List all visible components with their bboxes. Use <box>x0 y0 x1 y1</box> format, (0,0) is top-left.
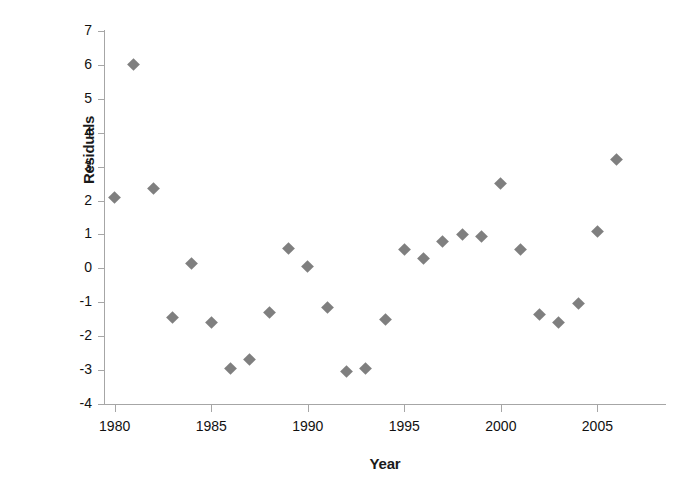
data-point-marker <box>572 298 585 311</box>
x-axis-tick-label-text: 1990 <box>273 418 343 435</box>
plot-area <box>105 31 665 404</box>
data-point-marker <box>282 242 295 255</box>
x-axis-tick-label: 2005 <box>562 418 632 436</box>
x-axis-tick-mark <box>501 404 502 412</box>
y-axis-tick-mark <box>98 133 105 134</box>
x-axis-tick-label: 2000 <box>466 418 536 436</box>
data-point-marker <box>321 301 334 314</box>
y-axis-tick-label-text: 7 <box>50 23 92 37</box>
y-axis-tick-mark <box>98 302 105 303</box>
y-axis-tick-mark <box>98 234 105 235</box>
y-axis-tick-label: -1 <box>48 294 92 308</box>
y-axis-tick-label: 2 <box>48 193 92 207</box>
data-point-marker <box>494 177 507 190</box>
data-point-marker <box>591 225 604 238</box>
data-point-marker <box>205 316 218 329</box>
data-point-marker <box>437 235 450 248</box>
x-axis-tick-mark <box>115 404 116 412</box>
data-point-marker <box>456 228 469 241</box>
y-axis-tick-label-text: 0 <box>50 260 92 274</box>
y-axis-tick-label: 0 <box>48 260 92 274</box>
y-axis-tick-mark <box>98 404 105 405</box>
x-axis-tick-label: 1990 <box>273 418 343 436</box>
y-axis-tick-label: 3 <box>48 159 92 173</box>
x-axis-tick-label: 1980 <box>80 418 150 436</box>
y-axis-tick-label: -3 <box>48 362 92 376</box>
data-point-marker <box>359 362 372 375</box>
x-axis-tick-mark <box>308 404 309 412</box>
x-axis-tick-label: 1995 <box>369 418 439 436</box>
y-axis-tick-label-text: 6 <box>50 57 92 71</box>
data-point-marker <box>147 182 160 195</box>
data-point-marker <box>108 191 121 204</box>
x-axis-tick-label-text: 2005 <box>562 418 632 435</box>
y-axis-tick-label-text: 3 <box>50 159 92 173</box>
y-axis-tick-mark <box>98 201 105 202</box>
data-point-marker <box>340 365 353 378</box>
data-point-marker <box>379 313 392 326</box>
x-axis-tick-label-text: 2000 <box>466 418 536 435</box>
data-point-marker <box>128 59 141 72</box>
y-axis-tick-label-text: 5 <box>50 91 92 105</box>
y-axis-tick-mark <box>98 99 105 100</box>
y-axis-tick-label: -2 <box>48 328 92 342</box>
residuals-scatter-chart: Residuals 76543210-1-2-3-4 1980198519901… <box>0 0 690 494</box>
x-axis-tick-mark <box>211 404 212 412</box>
y-axis-tick-label: 5 <box>48 91 92 105</box>
x-axis-tick-mark <box>404 404 405 412</box>
y-axis-tick-label: 1 <box>48 226 92 240</box>
x-axis-tick-label: 1985 <box>176 418 246 436</box>
x-axis-line <box>104 404 666 405</box>
data-point-marker <box>610 153 623 166</box>
data-point-marker <box>417 252 430 265</box>
y-axis-tick-label-text: 1 <box>50 226 92 240</box>
data-point-marker <box>263 306 276 319</box>
y-axis-tick-label: 4 <box>48 125 92 139</box>
y-axis-tick-label: 6 <box>48 57 92 71</box>
y-axis-tick-label-text: -4 <box>50 396 92 410</box>
y-axis-tick-label-text: -3 <box>50 362 92 376</box>
x-axis-tick-label-text: 1980 <box>80 418 150 435</box>
data-point-marker <box>398 243 411 256</box>
y-axis-tick-label: 7 <box>48 23 92 37</box>
y-axis-tick-mark <box>98 65 105 66</box>
x-axis-tick-label-text: 1995 <box>369 418 439 435</box>
data-point-marker <box>514 243 527 256</box>
y-axis-tick-label-text: -1 <box>50 294 92 308</box>
y-axis-tick-mark <box>98 167 105 168</box>
y-axis-tick-mark <box>98 31 105 32</box>
data-point-marker <box>533 308 546 321</box>
data-point-marker <box>475 230 488 243</box>
y-axis-tick-label-text: 4 <box>50 125 92 139</box>
data-point-marker <box>243 354 256 367</box>
y-axis-tick-mark <box>98 370 105 371</box>
data-point-marker <box>166 311 179 324</box>
x-axis-tick-label-text: 1985 <box>176 418 246 435</box>
data-point-marker <box>224 362 237 375</box>
x-axis-tick-mark <box>597 404 598 412</box>
x-axis-title: Year <box>105 455 665 472</box>
y-axis-tick-mark <box>98 336 105 337</box>
data-point-marker <box>186 257 199 270</box>
data-point-marker <box>301 260 314 273</box>
y-axis-tick-label: -4 <box>48 396 92 410</box>
y-axis-tick-label-text: -2 <box>50 328 92 342</box>
y-axis-tick-label-text: 2 <box>50 193 92 207</box>
y-axis-tick-mark <box>98 268 105 269</box>
data-point-marker <box>552 316 565 329</box>
